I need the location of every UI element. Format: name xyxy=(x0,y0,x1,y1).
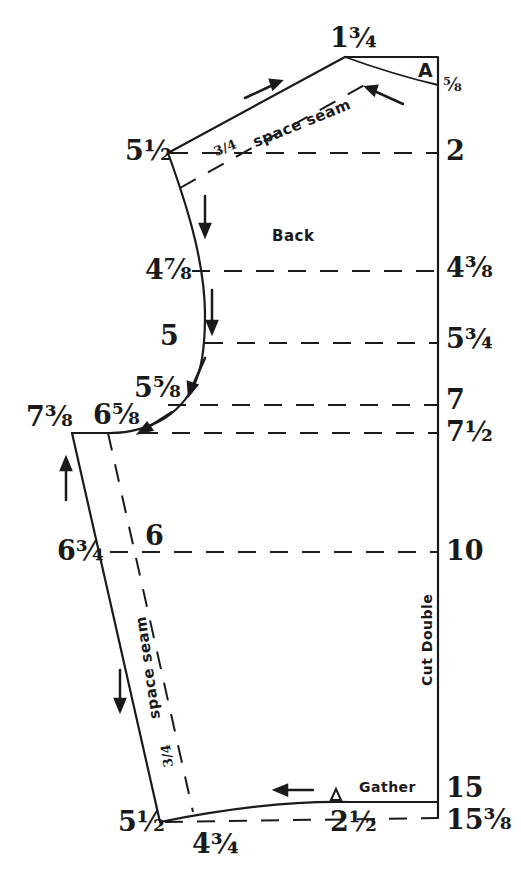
measure-armhole-3: 5⅝ xyxy=(134,374,181,401)
measure-right-5-3-4: 5¾ xyxy=(446,325,493,352)
guide-line-hem xyxy=(165,818,438,822)
gather-label: Gather xyxy=(359,780,416,794)
measure-side-waist-outer: 6¾ xyxy=(57,537,104,564)
measure-hem-mid: 2½ xyxy=(330,808,377,835)
measure-right-15: 15 xyxy=(446,774,484,801)
measure-side-waist-inner: 6 xyxy=(145,522,164,549)
notch-mark-a: A xyxy=(418,61,433,80)
center-back-fold-line xyxy=(345,57,438,818)
measure-right-4-3-8: 4⅜ xyxy=(446,254,493,281)
measure-armhole-4: 6⅝ xyxy=(93,401,140,428)
measure-neck-top: 1¾ xyxy=(330,24,377,51)
measure-underarm-outer: 7⅜ xyxy=(26,403,73,430)
measure-right-7: 7 xyxy=(446,386,465,413)
pattern-diagram: A space seam 3/4 Back space seam 3/4 Cut… xyxy=(0,0,521,882)
piece-title: Back xyxy=(272,229,314,244)
measure-hem-inner: 4¾ xyxy=(192,830,239,857)
measure-armhole-1: 4⅞ xyxy=(145,256,192,283)
measure-armhole-2: 5 xyxy=(160,322,179,349)
measure-right-2: 2 xyxy=(446,137,465,164)
measure-right-neck: ⅝ xyxy=(443,76,462,94)
measure-shoulder-left: 5½ xyxy=(125,137,172,164)
measure-hem-left: 5½ xyxy=(118,808,165,835)
measure-right-7-1-2: 7½ xyxy=(446,418,493,445)
side-seam-allowance-label: 3/4 xyxy=(159,744,175,768)
cut-double-label: Cut Double xyxy=(420,594,434,686)
measure-right-10: 10 xyxy=(446,537,484,564)
measure-right-15-3-8: 15⅜ xyxy=(446,806,512,833)
gather-notch-icon xyxy=(331,789,341,800)
